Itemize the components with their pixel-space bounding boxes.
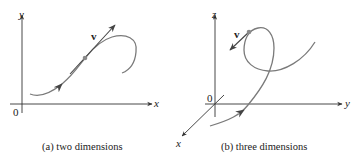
point-on-curve xyxy=(247,30,252,35)
x-axis-label: x xyxy=(176,138,181,149)
panel-a-two-dimensions xyxy=(10,15,152,113)
z-axis-label: z xyxy=(212,9,216,20)
space-curve xyxy=(30,36,136,96)
tangent-vector xyxy=(230,31,250,50)
x-axis-label: x xyxy=(154,98,159,109)
y-axis-label: y xyxy=(19,9,24,20)
direction-arrow-icon xyxy=(238,110,244,114)
origin-label: 0 xyxy=(207,93,213,104)
point-on-curve xyxy=(83,56,88,61)
y-axis-label: y xyxy=(345,98,350,109)
vector-label: v xyxy=(234,29,240,40)
vector-label: v xyxy=(91,31,97,42)
panel-b-three-dimensions xyxy=(182,15,342,136)
origin-label: 0 xyxy=(13,107,19,118)
caption-a: (a) two dimensions xyxy=(42,141,123,152)
space-curve xyxy=(210,28,315,126)
x-axis xyxy=(182,95,224,136)
caption-b: (b) three dimensions xyxy=(221,141,307,152)
